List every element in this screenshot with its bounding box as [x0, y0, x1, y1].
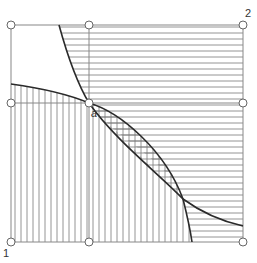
node-top-right — [239, 21, 247, 29]
node-center-a — [85, 99, 93, 107]
node-top-left — [7, 21, 15, 29]
node-bottom-right — [239, 238, 247, 246]
node-middle-left — [7, 99, 15, 107]
label-corner-2: 2 — [245, 7, 251, 19]
node-bottom-middle — [85, 238, 93, 246]
node-top-middle — [85, 21, 93, 29]
node-middle-right — [239, 99, 247, 107]
label-corner-1: 1 — [3, 247, 9, 259]
hatched-region-diagram: 1 2 a — [0, 0, 257, 263]
node-bottom-left — [7, 238, 15, 246]
label-point-a: a — [91, 107, 97, 119]
